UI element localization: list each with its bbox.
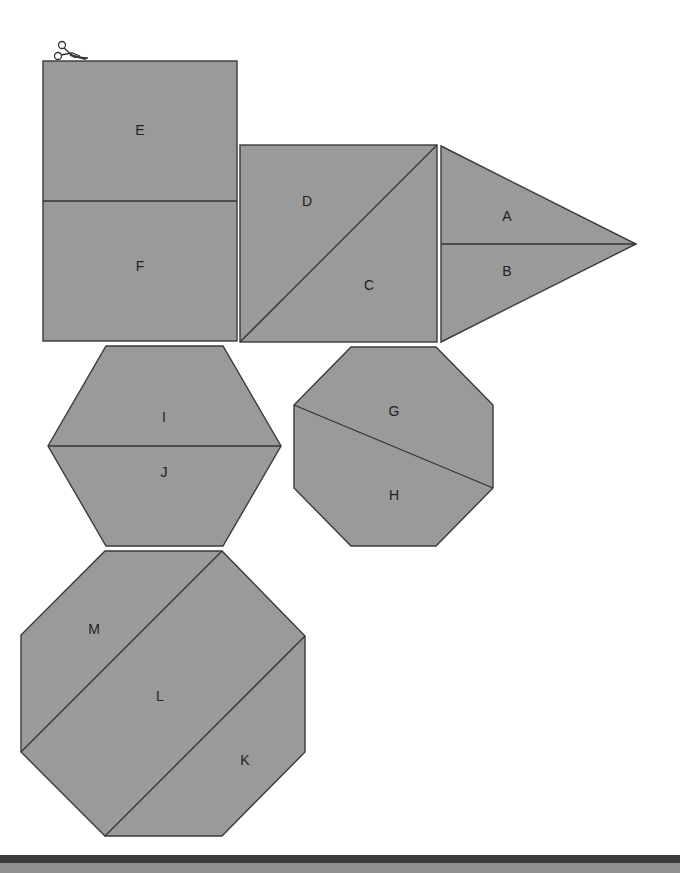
pattern-canvas: E F D C A B I J G H M L K <box>0 0 680 873</box>
footer-dark-band <box>0 855 680 863</box>
piece-label-c: C <box>364 277 374 293</box>
rectangle-shape: E F <box>43 61 237 341</box>
footer-gray-band <box>0 863 680 873</box>
piece-label-m: M <box>88 621 100 637</box>
piece-label-e: E <box>135 122 144 138</box>
piece-label-j: J <box>161 464 168 480</box>
hexagon-shape: I J <box>48 346 281 546</box>
piece-label-i: I <box>162 409 166 425</box>
piece-label-f: F <box>136 258 145 274</box>
piece-label-a: A <box>502 208 512 224</box>
piece-label-l: L <box>156 688 164 704</box>
piece-label-b: B <box>502 263 511 279</box>
triangle-shape: A B <box>441 146 636 342</box>
piece-label-k: K <box>240 752 250 768</box>
piece-label-h: H <box>389 487 399 503</box>
scissors-icon <box>55 42 89 60</box>
piece-label-g: G <box>389 403 400 419</box>
square-shape: D C <box>240 145 437 342</box>
small-octagon-shape: G H <box>294 347 493 546</box>
piece-label-d: D <box>302 193 312 209</box>
large-octagon-shape: M L K <box>21 551 305 836</box>
